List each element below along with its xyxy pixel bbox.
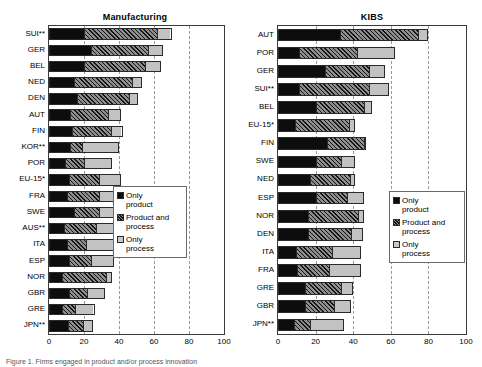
bar-segment-product-and-process [294,320,310,331]
bar-segment-only-product [50,127,72,136]
stacked-bar [278,29,428,42]
bar-segment-only-product [279,283,305,294]
bar-segment-only-product [279,138,327,149]
bar-row: NOR [49,269,224,285]
bar-segment-only-process [145,62,160,71]
y-tick-label: SUI** [25,30,45,38]
bar-segment-only-process [310,320,343,331]
legend-item-only-product: Only product [117,191,182,209]
bar-row: GER [49,42,224,58]
y-tick-label: FIN [32,127,45,135]
y-tick-label: GBR [28,289,45,297]
y-tick-label: EU-15* [248,121,274,129]
bar-segment-only-product [50,305,62,314]
bar-segment-product-and-process [70,110,107,119]
legend-label-only-product: Only product [402,196,429,214]
bar-segment-only-process [84,159,111,168]
bar-segment-product-and-process [325,66,369,77]
stacked-bar [278,264,361,277]
stacked-bar [49,255,114,266]
stacked-bar [278,174,355,187]
x-tick-label-80: 80 [185,337,194,346]
stacked-bar [278,210,364,223]
bar-segment-only-product [50,208,74,217]
stacked-bar [49,272,112,283]
bar-segment-only-product [50,78,74,87]
legend-swatch-product-and-process-icon [117,214,124,221]
bar-segment-only-process [349,120,354,131]
bar-row: BEL [278,98,466,116]
legend-label-product-and-process: Product and process [126,213,169,231]
stacked-bar [49,61,161,72]
bar-row: FRA [278,262,466,280]
bar-segment-only-process [341,283,352,294]
bar-segment-only-process [157,29,171,38]
bar-segment-only-product [50,224,64,233]
bar-row: AUT [278,26,466,44]
stacked-bar [49,239,116,250]
bar-row: SWE [278,153,466,171]
bar-segment-product-and-process [65,159,84,168]
bar-segment-only-product [279,102,316,113]
bar-segment-only-process [129,94,138,103]
chart-title-manufacturing: Manufacturing [2,12,240,22]
stacked-bar [49,223,119,234]
bar-segment-only-process [83,321,91,330]
bar-segment-only-product [50,192,67,201]
y-tick-label: FRA [258,266,274,274]
bar-row: GBR [49,285,224,301]
bar-row: GER [278,62,466,80]
x-tick-label-40: 40 [115,337,124,346]
bar-segment-product-and-process [327,138,364,149]
bar-row: POR [278,44,466,62]
x-tick-label-40: 40 [349,337,358,346]
bar-segment-product-and-process [299,48,356,59]
bar-segment-only-product [279,301,305,312]
bar-segment-product-and-process [297,265,328,276]
x-tick-label-0: 0 [47,337,51,346]
bar-segment-only-product [50,321,68,330]
bar-segment-product-and-process [64,224,96,233]
y-tick-label: AUT [29,111,45,119]
y-tick-label: NOR [256,212,274,220]
bar-row: SUI** [49,26,224,42]
stacked-bar [278,192,364,205]
stacked-bar [49,320,93,331]
legend-label-product-and-process: Product and process [402,218,445,236]
y-tick-label: SUI** [254,85,274,93]
y-tick-label: SWE [27,208,45,216]
legend-swatch-only-process-icon [393,241,400,248]
bar-segment-only-process [332,247,360,258]
stacked-bar [278,101,372,114]
bar-segment-only-process [369,66,384,77]
x-axis-kibs: 020406080100 [278,334,466,348]
figure-stacked-bar-charts: Manufacturing SUI**GERBELNEDDENAUTFINKOR… [0,0,482,367]
stacked-bar [49,304,95,315]
legend-manufacturing: Only product Product and process Only pr… [113,186,187,258]
bar-segment-only-product [279,320,294,331]
x-tick-label-0: 0 [276,337,280,346]
bar-segment-product-and-process [69,175,100,184]
bar-segment-only-process [111,127,121,136]
bar-segment-only-process [86,240,115,249]
bar-segment-only-product [50,240,67,249]
bar-segment-product-and-process [77,94,128,103]
bar-segment-product-and-process [74,208,99,217]
legend-item-product-and-process: Product and process [117,213,182,231]
bar-segment-only-product [279,84,299,95]
y-tick-label: JPN** [24,321,45,329]
y-tick-label: FRA [29,192,45,200]
bar-row: GRE [278,280,466,298]
bar-row: NED [278,171,466,189]
y-tick-label: GRE [28,305,45,313]
y-tick-label: BEL [259,103,274,111]
x-tick-label-60: 60 [150,337,159,346]
bar-row: KOR** [49,139,224,155]
y-tick-label: GBR [257,302,274,310]
x-tick-label-60: 60 [386,337,395,346]
y-tick-label: NED [28,78,45,86]
bar-segment-only-process [364,138,366,149]
figure-caption: Figure 1. Firms engaged in product and/o… [6,358,197,365]
y-tick-label: NED [257,175,274,183]
bar-segment-only-product [50,143,70,152]
